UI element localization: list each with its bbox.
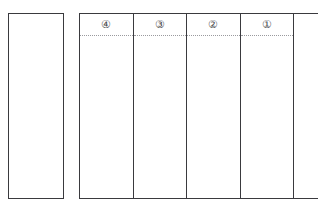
writing-area-1[interactable] <box>241 36 294 198</box>
writing-column-2[interactable]: ② <box>187 14 241 198</box>
free-writing-panel[interactable] <box>8 13 64 199</box>
writing-area-4[interactable] <box>80 36 133 198</box>
name-entry-column[interactable] <box>294 14 318 198</box>
vertical-writing-grid: ④ ③ ② ① 名 前 <box>79 13 318 199</box>
writing-area-3[interactable] <box>134 36 187 198</box>
column-number-1: ① <box>241 14 294 35</box>
worksheet-sheet: ④ ③ ② ① 名 前 <box>0 0 318 206</box>
writing-column-3[interactable]: ③ <box>134 14 188 198</box>
column-number-2: ② <box>187 14 240 35</box>
column-number-4: ④ <box>80 14 133 35</box>
writing-column-4[interactable]: ④ <box>80 14 134 198</box>
column-number-3: ③ <box>134 14 187 35</box>
writing-area-2[interactable] <box>187 36 240 198</box>
name-entry-area[interactable] <box>294 36 318 198</box>
writing-column-1[interactable]: ① <box>241 14 295 198</box>
